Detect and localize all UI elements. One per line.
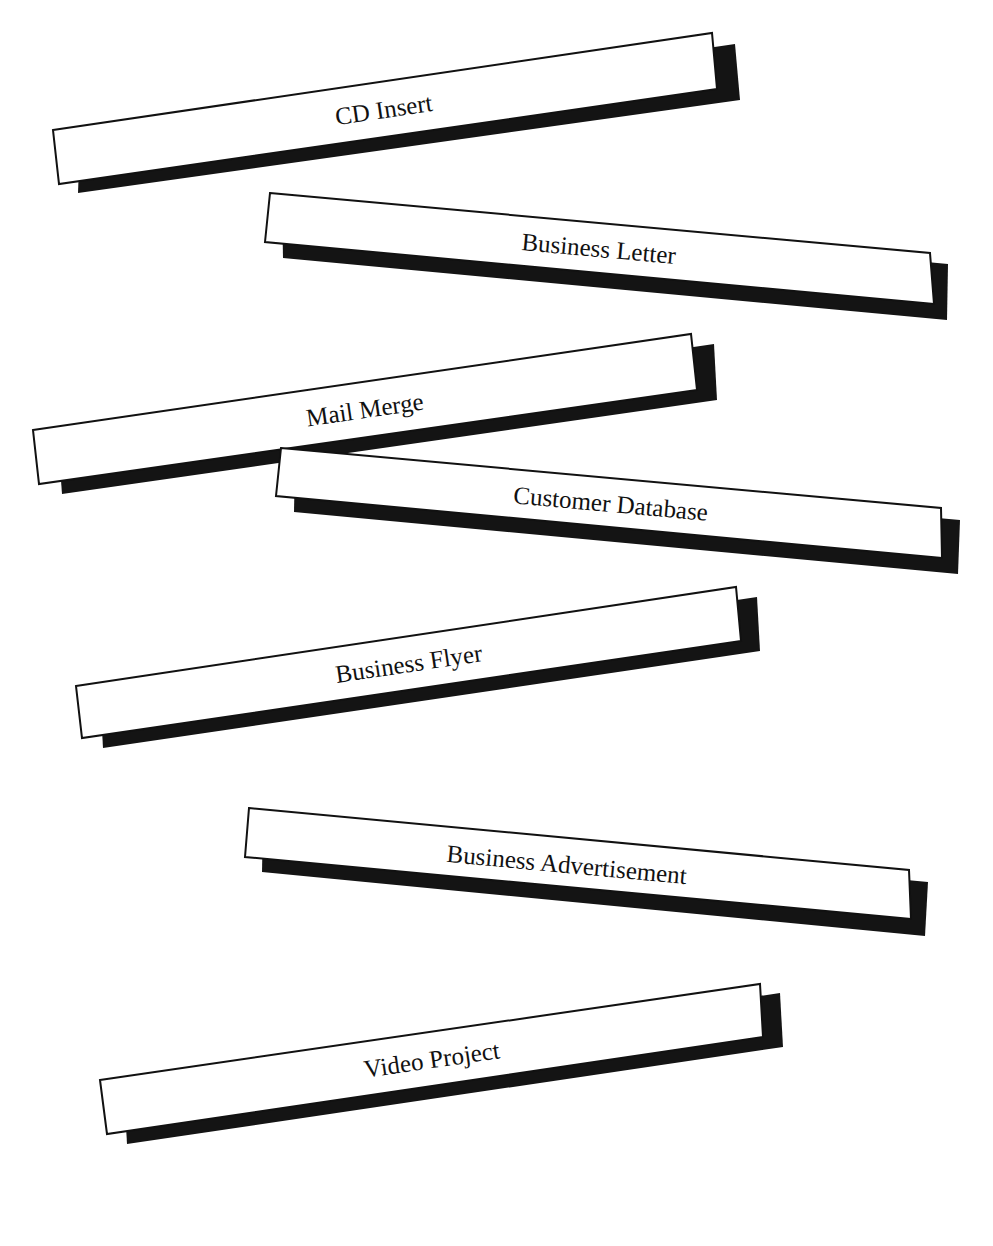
banner-video-project: Video Project <box>100 984 783 1144</box>
banner-business-advertisement: Business Advertisement <box>245 808 928 936</box>
banner-cd-insert: CD Insert <box>53 33 740 193</box>
banner-diagram: CD Insert Business Letter Mail Merge Cus… <box>0 0 993 1246</box>
banner-business-flyer: Business Flyer <box>76 587 760 748</box>
banner-customer-database: Customer Database <box>276 448 960 574</box>
banner-business-letter: Business Letter <box>265 193 948 320</box>
